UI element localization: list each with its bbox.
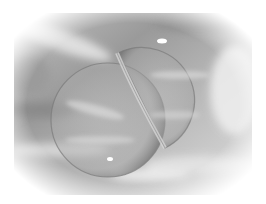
highlight-bottom	[107, 157, 113, 161]
bubble-scene	[0, 0, 266, 204]
bubble-photograph	[0, 0, 266, 204]
highlight-top	[157, 39, 167, 44]
